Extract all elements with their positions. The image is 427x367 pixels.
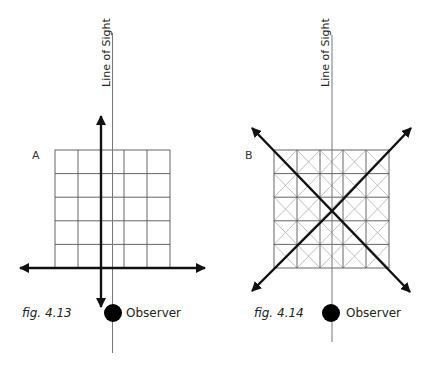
line-of-sight-label-b: Line of Sight [319,17,332,87]
observer-label-a: Observer [126,306,181,320]
panel-letter-b: B [245,149,253,162]
observer-dot-a [104,304,122,322]
diagonal-double-arrow-2 [332,128,411,211]
figure-b: Line of Sight B Observer fig. 4.14 [245,17,411,342]
diagram-canvas: Line of Sight A Observer fig. 4.13 [0,0,427,367]
line-of-sight-label-a: Line of Sight [100,17,113,87]
figure-caption-a: fig. 4.13 [22,306,72,320]
figure-a: Line of Sight A Observer fig. 4.13 [20,17,205,353]
figure-caption-b: fig. 4.14 [254,306,304,320]
observer-dot-b [322,304,340,322]
panel-letter-a: A [32,149,40,162]
observer-label-b: Observer [346,306,401,320]
